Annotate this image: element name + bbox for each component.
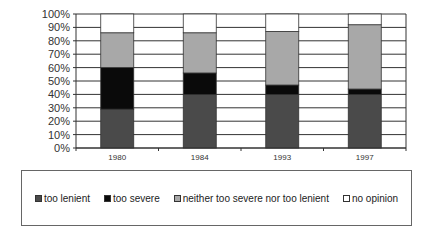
bar-segment xyxy=(101,109,134,148)
y-tick-label: 90% xyxy=(48,21,70,33)
bar-segment xyxy=(348,25,381,89)
bar-segment xyxy=(183,94,216,148)
bar-segment xyxy=(183,73,216,94)
y-tick-label: 40% xyxy=(48,88,70,100)
y-tick-label: 30% xyxy=(48,102,70,114)
bar-segment xyxy=(266,85,299,94)
bar-segment xyxy=(266,14,299,31)
y-tick-label: 0% xyxy=(54,142,70,154)
y-tick-label: 80% xyxy=(48,35,70,47)
legend-label: no opinion xyxy=(352,193,398,204)
legend: too lenient too severe neither too sever… xyxy=(21,170,412,226)
legend-label: too lenient xyxy=(44,193,90,204)
y-tick-label: 60% xyxy=(48,62,70,74)
bar-segment xyxy=(348,14,381,25)
bar-segment xyxy=(266,94,299,148)
bar-segment xyxy=(348,94,381,148)
legend-item-neither: neither too severe nor too lenient xyxy=(174,193,329,204)
legend-swatch xyxy=(35,195,42,202)
bar-segment xyxy=(101,33,134,68)
x-tick-label: 1980 xyxy=(108,153,126,162)
y-tick-label: 20% xyxy=(48,115,70,127)
bar-segment xyxy=(348,89,381,94)
x-tick-label: 1984 xyxy=(191,153,209,162)
y-tick-label: 10% xyxy=(48,129,70,141)
legend-swatch xyxy=(104,195,111,202)
bar-segment xyxy=(183,33,216,73)
bar-segment xyxy=(101,14,134,33)
legend-swatch xyxy=(174,195,181,202)
legend-label: too severe xyxy=(113,193,160,204)
x-axis-labels: 1980198419931997 xyxy=(108,153,374,162)
x-tick-label: 1997 xyxy=(356,153,374,162)
legend-swatch xyxy=(343,195,350,202)
y-tick-label: 50% xyxy=(48,75,70,87)
bar-segment xyxy=(183,14,216,33)
bar-segment xyxy=(101,68,134,110)
legend-item-too-severe: too severe xyxy=(104,193,160,204)
legend-item-too-lenient: too lenient xyxy=(35,193,90,204)
legend-label: neither too severe nor too lenient xyxy=(183,193,329,204)
y-tick-label: 70% xyxy=(48,48,70,60)
legend-item-no-opinion: no opinion xyxy=(343,193,398,204)
y-axis-labels: 0%10%20%30%40%50%60%70%80%90%100% xyxy=(42,8,70,154)
x-tick-label: 1993 xyxy=(273,153,291,162)
bar-segment xyxy=(266,31,299,85)
y-tick-label: 100% xyxy=(42,8,70,20)
